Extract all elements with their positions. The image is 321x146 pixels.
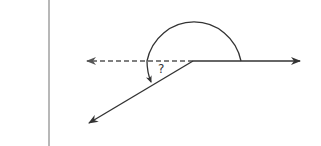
unknown-angle-label: ? xyxy=(158,62,164,76)
lower-left-ray xyxy=(89,61,193,123)
